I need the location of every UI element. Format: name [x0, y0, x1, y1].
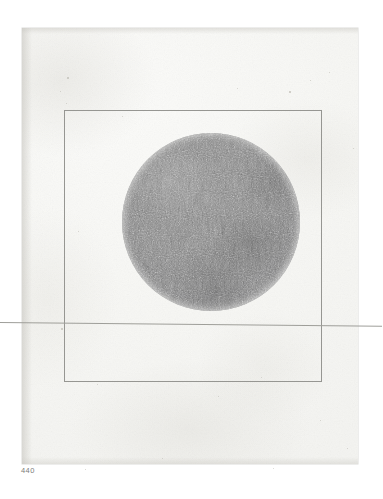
- disc-scribble-texture: [122, 133, 300, 311]
- paper-speck: [85, 469, 86, 470]
- paper-sheet: [22, 28, 358, 464]
- paper-speck: [273, 468, 274, 469]
- artwork-layer: [22, 28, 358, 464]
- graphite-disc: [122, 133, 300, 311]
- page-number: 440: [21, 466, 35, 475]
- disc-fill: [122, 133, 300, 311]
- scan-page: 440: [0, 0, 383, 499]
